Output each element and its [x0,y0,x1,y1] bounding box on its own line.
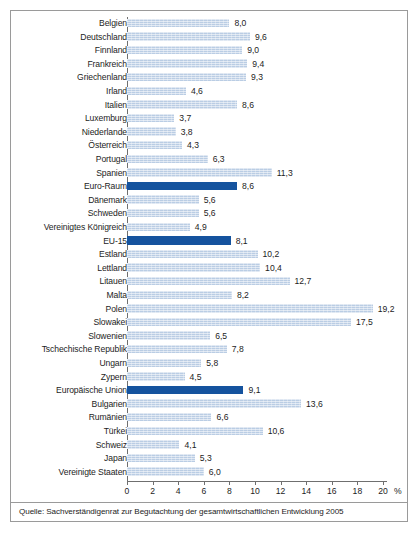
chart-row: Spanien11,3 [11,167,407,179]
bar [127,195,199,204]
x-axis-tick-label: 20 [373,486,393,497]
chart-row: Euro-Raum8,6 [11,180,407,192]
bar-value-label: 3,8 [181,126,193,138]
bar [127,59,247,68]
category-label: Bulgarien [0,398,127,410]
category-label: Slowenien [0,330,127,342]
bar [127,32,250,41]
x-axis-tick [357,481,358,485]
bar [127,304,373,313]
bar-highlighted [127,236,231,245]
category-label: Portugal [0,153,127,165]
bar-value-label: 9,3 [251,71,263,83]
x-axis-tick [153,481,154,485]
bar [127,87,186,96]
bar-value-label: 5,6 [204,207,216,219]
x-axis-tick [229,481,230,485]
chart-row: Griechenland9,3 [11,71,407,83]
bar [127,359,201,368]
bar-value-label: 4,9 [195,221,207,233]
chart-row: Malta8,2 [11,289,407,301]
bar-value-label: 9,1 [248,384,260,396]
x-axis-tick-label: 12 [271,486,291,497]
chart-row: Lettland10,4 [11,262,407,274]
chart-row: Ungarn5,8 [11,357,407,369]
category-label: Vereinigtes Königreich [0,221,127,233]
bar-value-label: 7,8 [232,343,244,355]
bar [127,345,227,354]
category-label: EU-15 [0,235,127,247]
category-label: Rumänien [0,411,127,423]
bar-value-label: 4,1 [184,439,196,451]
category-label: Türkei [0,425,127,437]
bar [127,168,272,177]
chart-row: Estland10,2 [11,248,407,260]
bar [127,454,195,463]
source-note: Quelle: Sachverständigenrat zur Begutach… [19,505,403,519]
bar-value-label: 9,0 [247,44,259,56]
bar [127,223,190,232]
plot-area: Belgien8,0Deutschland9,6Finnland9,0Frank… [11,11,407,481]
bar [127,263,260,272]
chart-row: Europäische Union9,1 [11,384,407,396]
chart-row: Rumänien6,6 [11,411,407,423]
x-axis-tick-label: 0 [117,486,137,497]
bar [127,19,229,28]
chart-row: Slowakei17,5 [11,316,407,328]
bar [127,46,242,55]
x-axis-tick-label: 10 [245,486,265,497]
x-axis-tick [281,481,282,485]
chart-row: Schweiz4,1 [11,439,407,451]
category-label: Tschechische Republik [0,343,127,355]
bar-value-label: 17,5 [356,316,373,328]
chart-row: Dänemark5,6 [11,194,407,206]
bar [127,250,258,259]
category-label: Irland [0,85,127,97]
bar [127,467,204,476]
chart-row: Deutschland9,6 [11,31,407,43]
chart-row: Luxemburg3,7 [11,112,407,124]
bar-value-label: 19,2 [378,303,395,315]
source-divider [11,502,407,503]
bar-value-label: 10,2 [263,248,280,260]
category-label: Slowakei [0,316,127,328]
x-axis-tick [332,481,333,485]
category-label: Japan [0,452,127,464]
chart-row: Vereinigte Staaten6,0 [11,466,407,478]
x-axis-line [127,481,387,482]
category-label: Spanien [0,167,127,179]
category-label: Deutschland [0,31,127,43]
bar-value-label: 10,4 [265,262,282,274]
chart-figure: Belgien8,0Deutschland9,6Finnland9,0Frank… [10,10,408,522]
category-label: Euro-Raum [0,180,127,192]
bar-value-label: 6,0 [209,466,221,478]
chart-row: Polen19,2 [11,303,407,315]
bar [127,100,237,109]
chart-row: EU-158,1 [11,235,407,247]
category-label: Luxemburg [0,112,127,124]
bar-highlighted [127,182,237,191]
bar-value-label: 12,7 [295,275,312,287]
bar [127,141,182,150]
x-axis-tick [127,481,128,485]
category-label: Finnland [0,44,127,56]
x-axis-tick-label: 8 [219,486,239,497]
chart-row: Tschechische Republik7,8 [11,343,407,355]
category-label: Griechenland [0,71,127,83]
bar [127,209,199,218]
bar-value-label: 9,6 [255,31,267,43]
category-label: Litauen [0,275,127,287]
category-label: Polen [0,303,127,315]
bar-value-label: 3,7 [179,112,191,124]
category-label: Ungarn [0,357,127,369]
bar-value-label: 5,3 [200,452,212,464]
chart-row: Belgien8,0 [11,17,407,29]
chart-row: Vereinigtes Königreich4,9 [11,221,407,233]
chart-row: Türkei10,6 [11,425,407,437]
x-axis-tick-label: 14 [296,486,316,497]
x-axis-tick-label: 6 [194,486,214,497]
bar-value-label: 4,6 [191,85,203,97]
bar-value-label: 4,5 [190,371,202,383]
chart-row: Niederlande3,8 [11,126,407,138]
x-axis-tick-label: 4 [168,486,188,497]
